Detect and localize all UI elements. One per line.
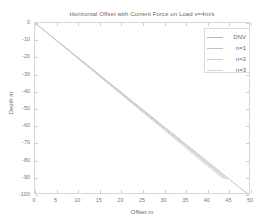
- y-tick-mark: [246, 23, 249, 24]
- y-tick-mark: [35, 126, 38, 127]
- y-tick-mark: [246, 109, 249, 110]
- y-tick-mark: [35, 109, 38, 110]
- y-tick-mark: [35, 178, 38, 179]
- x-tick-mark: [100, 23, 101, 26]
- y-tick-mark: [35, 40, 38, 41]
- x-tick-mark: [121, 190, 122, 193]
- legend: DNVn=1n=2n=3: [204, 28, 250, 73]
- x-tick-label: 10: [74, 197, 80, 203]
- x-tick-mark: [143, 190, 144, 193]
- y-tick-mark: [35, 23, 38, 24]
- y-tick-mark: [35, 143, 38, 144]
- y-tick-mark: [35, 57, 38, 58]
- x-tick-label: 0: [32, 197, 35, 203]
- legend-item[interactable]: n=2: [205, 53, 249, 64]
- y-axis-label: Depth m: [8, 83, 14, 123]
- x-tick-mark: [208, 190, 209, 193]
- legend-label: n=3: [223, 67, 249, 73]
- y-tick-mark: [35, 161, 38, 162]
- legend-item[interactable]: DNV: [205, 31, 249, 42]
- y-tick-label: -40: [0, 88, 30, 94]
- x-tick-mark: [121, 23, 122, 26]
- y-tick-mark: [246, 195, 249, 196]
- x-tick-label: 40: [204, 197, 210, 203]
- legend-label: n=1: [223, 45, 249, 51]
- legend-item[interactable]: n=3: [205, 64, 249, 75]
- x-tick-mark: [229, 23, 230, 26]
- x-tick-mark: [35, 190, 36, 193]
- legend-item[interactable]: n=1: [205, 42, 249, 53]
- chart-title: Horizontal Offset with Current Force on …: [34, 11, 250, 17]
- y-tick-mark: [246, 161, 249, 162]
- y-tick-mark: [35, 92, 38, 93]
- y-tick-label: -10: [0, 36, 30, 42]
- legend-line-swatch: [207, 55, 223, 63]
- chart-figure: Horizontal Offset with Current Force on …: [0, 0, 266, 224]
- x-tick-mark: [143, 23, 144, 26]
- x-tick-mark: [229, 190, 230, 193]
- legend-line-swatch: [207, 66, 223, 74]
- y-tick-label: -70: [0, 139, 30, 145]
- x-tick-label: 35: [182, 197, 188, 203]
- x-tick-label: 25: [139, 197, 145, 203]
- legend-label: DNV: [223, 34, 249, 40]
- y-tick-mark: [35, 75, 38, 76]
- x-tick-mark: [57, 190, 58, 193]
- y-tick-label: -20: [0, 53, 30, 59]
- x-tick-label: 30: [161, 197, 167, 203]
- x-tick-mark: [186, 190, 187, 193]
- y-tick-mark: [35, 195, 38, 196]
- x-tick-mark: [100, 190, 101, 193]
- y-tick-label: -90: [0, 174, 30, 180]
- x-tick-mark: [251, 190, 252, 193]
- y-tick-mark: [246, 126, 249, 127]
- y-tick-label: -80: [0, 157, 30, 163]
- y-tick-label: -60: [0, 122, 30, 128]
- x-tick-label: 5: [54, 197, 57, 203]
- x-tick-label: 50: [247, 197, 253, 203]
- y-tick-mark: [246, 143, 249, 144]
- y-tick-label: -50: [0, 105, 30, 111]
- x-tick-label: 45: [225, 197, 231, 203]
- y-tick-label: -100: [0, 191, 30, 197]
- y-tick-mark: [246, 178, 249, 179]
- x-axis-label: Offset m: [34, 209, 250, 215]
- y-tick-label: -30: [0, 71, 30, 77]
- x-tick-mark: [186, 23, 187, 26]
- x-tick-mark: [57, 23, 58, 26]
- y-tick-mark: [246, 92, 249, 93]
- legend-label: n=2: [223, 56, 249, 62]
- series-line: [35, 23, 223, 179]
- y-tick-label: 0: [0, 19, 30, 25]
- legend-line-swatch: [207, 33, 223, 41]
- x-tick-label: 20: [117, 197, 123, 203]
- x-tick-mark: [78, 23, 79, 26]
- x-tick-mark: [251, 23, 252, 26]
- legend-line-swatch: [207, 44, 223, 52]
- x-tick-mark: [165, 23, 166, 26]
- x-tick-mark: [165, 190, 166, 193]
- x-tick-label: 15: [96, 197, 102, 203]
- x-tick-mark: [78, 190, 79, 193]
- x-tick-mark: [208, 23, 209, 26]
